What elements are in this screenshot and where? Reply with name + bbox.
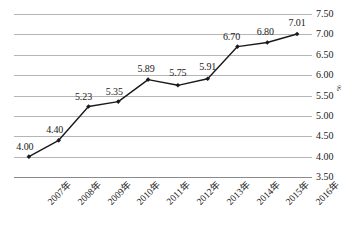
- data-point-marker: [176, 83, 181, 88]
- data-series: [14, 14, 312, 177]
- x-tick-label: 2009年: [106, 180, 133, 207]
- data-point-label: 4.00: [16, 142, 33, 152]
- y-tick-label: 4.00: [316, 152, 334, 162]
- data-point-label: 6.70: [223, 32, 240, 42]
- series-line: [29, 34, 297, 157]
- x-tick-label: 2007年: [46, 180, 73, 207]
- y-tick-label: 3.50: [316, 172, 334, 182]
- data-point-marker: [265, 40, 270, 45]
- y-tick-label: 4.50: [316, 131, 334, 141]
- x-tick-label: 2012年: [195, 180, 222, 207]
- y-tick-label: 6.00: [316, 70, 334, 80]
- x-tick-label: 2015年: [285, 180, 312, 207]
- data-point-label: 4.40: [46, 125, 63, 135]
- x-tick-label: 2013年: [225, 180, 252, 207]
- data-point-label: 5.75: [169, 68, 186, 78]
- y-tick-label: 7.00: [316, 29, 334, 39]
- data-point-label: 5.91: [199, 62, 216, 72]
- series-markers: [27, 32, 300, 159]
- line-chart: 4.004.405.235.355.895.755.916.706.807.01…: [0, 0, 363, 225]
- y-tick-label: 6.50: [316, 50, 334, 60]
- x-tick-label: 2008年: [76, 180, 103, 207]
- data-point-label: 6.80: [257, 27, 274, 37]
- y-tick-label: 7.50: [316, 9, 334, 19]
- y-tick-label: 5.00: [316, 111, 334, 121]
- x-axis-tick-labels: 2007年2008年2009年2010年2011年2012年2013年2014年…: [14, 178, 312, 225]
- y-axis-tick-labels: 7.507.006.506.005.505.004.504.003.50: [316, 14, 356, 177]
- data-point-label: 5.23: [75, 92, 92, 102]
- x-tick-label: 2016年: [315, 180, 342, 207]
- data-point-label: 5.89: [138, 64, 155, 74]
- data-point-label: 7.01: [289, 18, 306, 28]
- x-tick-label: 2011年: [165, 180, 192, 207]
- data-point-marker: [295, 32, 300, 37]
- data-point-label: 5.35: [106, 87, 123, 97]
- plot-area: 4.004.405.235.355.895.755.916.706.807.01: [14, 14, 312, 177]
- y-tick-label: 5.50: [316, 91, 334, 101]
- y-axis-title: %: [336, 85, 343, 91]
- x-tick-label: 2010年: [136, 180, 163, 207]
- x-tick-label: 2014年: [255, 180, 282, 207]
